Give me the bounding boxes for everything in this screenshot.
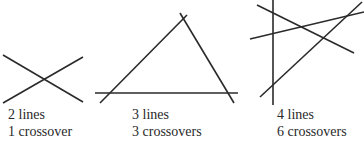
crossover-count-label: 6 crossovers	[277, 123, 347, 140]
line-count-label: 4 lines	[277, 106, 347, 123]
line-count-label: 3 lines	[132, 106, 202, 123]
panel-two-lines	[3, 55, 83, 103]
straight-line	[100, 15, 187, 103]
straight-line	[3, 57, 83, 103]
line-count-label: 2 lines	[8, 106, 72, 123]
caption-two-lines: 2 lines 1 crossover	[8, 106, 72, 140]
crossover-count-label: 3 crossovers	[132, 123, 202, 140]
caption-three-lines: 3 lines 3 crossovers	[132, 106, 202, 140]
straight-line	[180, 13, 234, 103]
panel-four-lines	[250, 0, 364, 105]
caption-four-lines: 4 lines 6 crossovers	[277, 106, 347, 140]
crossover-count-label: 1 crossover	[8, 123, 72, 140]
straight-line	[3, 55, 83, 102]
straight-line	[257, 5, 354, 53]
panel-three-lines	[95, 13, 238, 103]
